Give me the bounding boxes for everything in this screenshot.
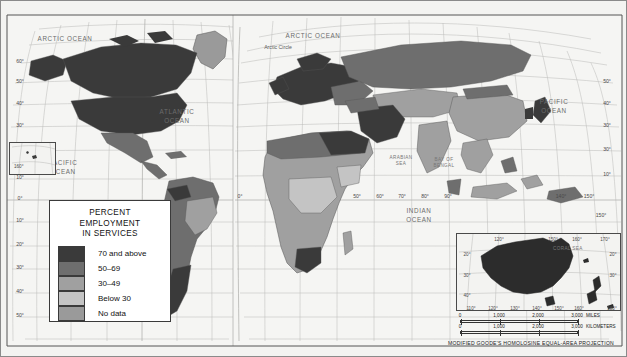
scale-bar-kilometers bbox=[460, 331, 578, 334]
lat-tick-left-9: 40° bbox=[16, 288, 24, 294]
scale-miles-tick-2: 2,000 bbox=[532, 313, 544, 318]
scale-kilometers-tick-0: 0 bbox=[459, 324, 462, 329]
pacific-islands-inset: 160° bbox=[9, 142, 56, 175]
indian-ocean-label-line2: OCEAN bbox=[406, 216, 431, 223]
arctic-ocean-west-label: ARCTIC OCEAN bbox=[38, 35, 93, 42]
inset-top-tick-2: 160° bbox=[572, 237, 582, 242]
arabian-sea-label-line2: SEA bbox=[396, 161, 407, 166]
atlantic-ocean-label-line2: OCEAN bbox=[164, 117, 189, 124]
inset-bottom-tick-5: 160° bbox=[574, 306, 584, 311]
lon-tick-2: 60° bbox=[376, 193, 384, 199]
lon-tick-7: 150° bbox=[584, 193, 595, 199]
inset-right-tick-1: 30° bbox=[610, 273, 617, 278]
lon-tick-5: 90° bbox=[444, 193, 452, 199]
legend-entry: 70 and above bbox=[56, 246, 164, 261]
legend-swatch-1 bbox=[58, 261, 85, 276]
inset-bottom-tick-0: 110° bbox=[466, 306, 475, 311]
scale-miles-tick-1: 1,000 bbox=[493, 313, 505, 318]
inset-bottom-tick-2: 130° bbox=[510, 306, 520, 311]
inset-bottom-tick-4: 150° bbox=[554, 306, 564, 311]
map-legend: PERCENT EMPLOYMENT IN SERVICES 70 and ab… bbox=[49, 200, 171, 322]
lat-tick-left-10: 50° bbox=[16, 312, 24, 318]
legend-label-4: No data bbox=[98, 309, 126, 318]
lat-tick-right-3: 30° bbox=[603, 146, 611, 152]
bay-of-bengal-label-line2: BENGAL bbox=[433, 163, 454, 168]
scale-kilometers-tick-2: 2,000 bbox=[532, 324, 544, 329]
lon-tick-3: 70° bbox=[398, 193, 406, 199]
lat-tick-left-1: 50° bbox=[16, 78, 24, 84]
lat-tick-left-3: 30° bbox=[16, 122, 24, 128]
inset-top-tick-0: 120° bbox=[494, 237, 504, 242]
inset-left-tick-0: 20° bbox=[464, 252, 471, 257]
lat-tick-right-1: 40° bbox=[603, 100, 611, 106]
scale-bars: 01,0002,0003,000MILES 01,0002,0003,000KI… bbox=[456, 314, 621, 340]
lat-tick-left-2: 40° bbox=[16, 100, 24, 106]
inset-region-tasmania bbox=[545, 296, 555, 306]
legend-title-line-2: EMPLOYMENT bbox=[56, 219, 164, 230]
lat-tick-right-4: 10° bbox=[603, 171, 611, 177]
legend-label-0: 70 and above bbox=[98, 249, 147, 258]
region-korea bbox=[525, 107, 533, 119]
lat-tick-left-5: 0° bbox=[18, 195, 23, 201]
lon-tick-1: 50° bbox=[353, 193, 361, 199]
map-annotations: Arctic Circle bbox=[264, 44, 292, 50]
projection-caption: MODIFIED GOODE'S HOMOLOSINE EQUAL-AREA P… bbox=[438, 340, 624, 346]
lat-tick-right-0: 50° bbox=[603, 78, 611, 84]
world-map-figure: ARCTIC OCEANARCTIC OCEANATLANTICOCEANPAC… bbox=[0, 0, 627, 357]
legend-entry: 50–69 bbox=[56, 261, 164, 276]
arabian-sea-label: ARABIAN bbox=[390, 155, 413, 160]
legend-entry: Below 30 bbox=[56, 291, 164, 306]
inset-bottom-tick-6: 180° bbox=[607, 306, 617, 311]
pacific-ocean-east-label: PACIFIC bbox=[540, 98, 569, 105]
legend-entry-list: 70 and above50–6930–49Below 30No data bbox=[56, 246, 164, 321]
legend-label-3: Below 30 bbox=[98, 294, 131, 303]
inset-bottom-tick-1: 120° bbox=[488, 306, 498, 311]
scale-row-kilometers: 01,0002,0003,000KILOMETERS bbox=[456, 325, 621, 336]
lon-tick-6: 140° bbox=[556, 193, 567, 199]
scale-kilometers-tick-1: 1,000 bbox=[493, 324, 505, 329]
scale-kilometers-unit: KILOMETERS bbox=[586, 324, 616, 329]
legend-entry: No data bbox=[56, 306, 164, 321]
legend-title: PERCENT EMPLOYMENT IN SERVICES bbox=[56, 208, 164, 240]
arctic-circle-label: Arctic Circle bbox=[264, 44, 292, 50]
inset-pacific-tick-label: 160° bbox=[14, 164, 24, 169]
lat-tick-left-6: 10° bbox=[16, 217, 24, 223]
scale-kilometers-tick-3: 3,000 bbox=[571, 324, 583, 329]
legend-swatch-0 bbox=[58, 246, 85, 261]
arctic-ocean-east-label: ARCTIC OCEAN bbox=[286, 32, 341, 39]
inset-right-tick-0: 20° bbox=[610, 252, 617, 257]
scale-bar-miles bbox=[460, 320, 578, 323]
inset-bottom-tick-3: 140° bbox=[532, 306, 542, 311]
lat-tick-left-8: 30° bbox=[16, 264, 24, 270]
inset-left-tick-1: 30° bbox=[464, 273, 471, 278]
legend-entry: 30–49 bbox=[56, 276, 164, 291]
legend-label-1: 50–69 bbox=[98, 264, 120, 273]
inset-left-tick-2: 40° bbox=[464, 293, 471, 298]
lat-tick-right-2: 30° bbox=[603, 122, 611, 128]
scale-miles-tick-3: 3,000 bbox=[571, 313, 583, 318]
scale-miles-tick-0: 0 bbox=[459, 313, 462, 318]
coral-sea-label: CORAL SEA bbox=[553, 246, 583, 251]
pacific-ocean-east-label-line2: OCEAN bbox=[541, 107, 566, 114]
legend-title-line-1: PERCENT bbox=[56, 208, 164, 219]
inset-top-tick-1: 150° bbox=[548, 237, 558, 242]
lon-tick-9: 150° bbox=[596, 212, 607, 218]
lon-tick-0: 0° bbox=[238, 193, 243, 199]
indian-ocean-label: INDIAN bbox=[407, 207, 432, 214]
lon-tick-4: 80° bbox=[421, 193, 429, 199]
legend-title-line-3: IN SERVICES bbox=[56, 229, 164, 240]
lat-tick-left-0: 60° bbox=[16, 58, 24, 64]
atlantic-ocean-label: ATLANTIC bbox=[160, 108, 195, 115]
legend-swatch-2 bbox=[58, 276, 85, 291]
legend-label-2: 30–49 bbox=[98, 279, 120, 288]
bay-of-bengal-label: BAY OF bbox=[435, 157, 454, 162]
legend-swatch-3 bbox=[58, 291, 85, 306]
legend-swatch-4 bbox=[58, 306, 85, 321]
inset-top-tick-3: 170° bbox=[600, 237, 610, 242]
lat-tick-left-7: 20° bbox=[16, 241, 24, 247]
australia-inset: CORAL SEA 120°150°160°170°20°30°40°20°30… bbox=[456, 233, 621, 311]
scale-miles-unit: MILES bbox=[586, 313, 600, 318]
